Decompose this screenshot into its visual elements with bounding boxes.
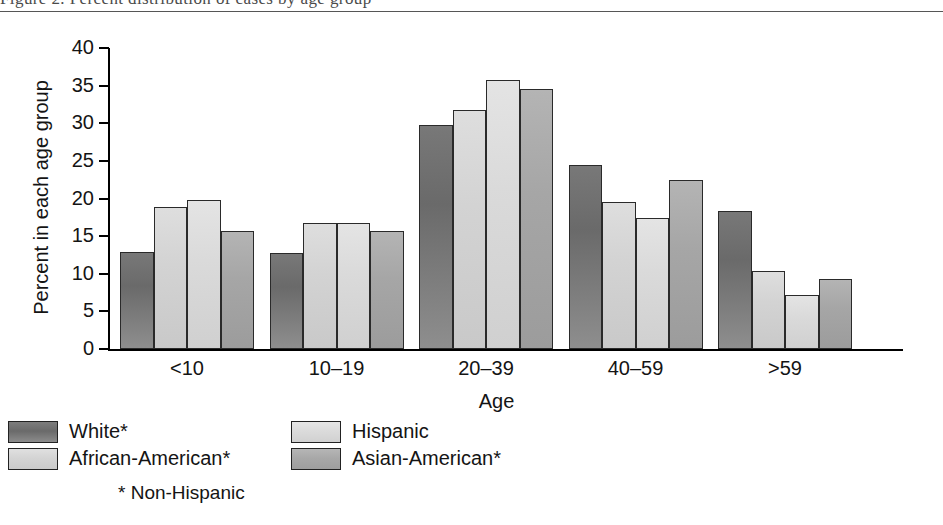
bar — [221, 231, 255, 349]
bars-container — [108, 48, 903, 349]
x-axis-title-text: Age — [479, 390, 515, 412]
legend-item-asian-american: Asian-American* — [291, 445, 501, 472]
legend-swatch-icon-african-american — [8, 448, 58, 470]
y-tick-label: 10 — [44, 263, 94, 283]
x-tick-label-1: <10 — [112, 357, 262, 380]
y-tick-label: 35 — [44, 75, 94, 95]
bar — [154, 207, 188, 349]
y-tick-label-text: 25 — [48, 150, 94, 170]
legend-item-white: White* — [8, 418, 230, 445]
bar — [419, 125, 453, 349]
bar — [270, 253, 304, 349]
y-tick-label-text: 15 — [48, 225, 94, 245]
legend-item-hispanic: Hispanic — [291, 418, 501, 445]
x-tick-label-3: 20–39 — [411, 357, 561, 380]
y-tick-label: 15 — [44, 225, 94, 245]
legend-footnote: * Non-Hispanic — [118, 482, 245, 504]
legend-label-african-american: African-American* — [69, 447, 230, 470]
y-tick-label: 20 — [44, 188, 94, 208]
bar — [819, 279, 853, 349]
legend-swatch-icon-hispanic — [291, 421, 341, 443]
x-tick-label-4: 40–59 — [561, 357, 711, 380]
bar — [785, 295, 819, 349]
legend-label-white: White* — [69, 420, 128, 443]
bar — [303, 223, 337, 349]
bar — [187, 200, 221, 349]
legend-column-left: White* African-American* — [8, 418, 230, 472]
bar — [569, 165, 603, 349]
bar — [718, 211, 752, 349]
legend-swatch-icon-white — [8, 421, 58, 443]
bar — [337, 223, 371, 349]
legend-label-hispanic: Hispanic — [352, 420, 429, 443]
bar — [520, 89, 554, 349]
bar — [370, 231, 404, 349]
bar — [453, 110, 487, 349]
bar — [486, 80, 520, 349]
bar — [636, 218, 670, 349]
legend-label-asian-american: Asian-American* — [352, 447, 501, 470]
y-tick-label-text: 5 — [48, 300, 94, 320]
x-tick-label-2: 10–19 — [262, 357, 412, 380]
bar — [602, 202, 636, 349]
y-tick-label-text: 10 — [48, 263, 94, 283]
bar — [752, 271, 786, 349]
y-tick-label-text: 30 — [48, 112, 94, 132]
x-tick-label-5: >59 — [710, 357, 860, 380]
y-tick-label: 25 — [44, 150, 94, 170]
y-tick-label-text: 0 — [48, 338, 94, 358]
bar — [120, 252, 154, 349]
y-tick-label: 40 — [44, 37, 94, 57]
y-tick-label-text: 40 — [48, 37, 94, 57]
y-tick-label-text: 20 — [48, 188, 94, 208]
legend-item-african-american: African-American* — [8, 445, 230, 472]
legend-column-right: Hispanic Asian-American* — [291, 418, 501, 472]
y-tick-label: 5 — [44, 300, 94, 320]
bar-chart: Percent in each age group 05101520253035… — [0, 0, 943, 525]
x-axis-title: Age — [0, 390, 943, 413]
bar — [669, 180, 703, 349]
y-tick-label-text: 35 — [48, 75, 94, 95]
legend-swatch-icon-asian-american — [291, 448, 341, 470]
y-tick-label: 0 — [44, 338, 94, 358]
y-tick-label: 30 — [44, 112, 94, 132]
